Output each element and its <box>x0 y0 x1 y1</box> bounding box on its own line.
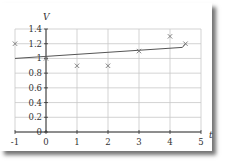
x-axis-label: t <box>209 130 213 140</box>
y-tick-label: 1.4 <box>28 24 42 34</box>
x-tick-label: 3 <box>136 137 141 147</box>
y-axis-label: V <box>43 12 51 22</box>
x-tick-labels: -1012345 <box>11 137 204 147</box>
y-tick-label: 1 <box>37 53 42 63</box>
x-tick-label: 4 <box>167 137 172 147</box>
y-tick-label: 0.8 <box>28 68 42 78</box>
y-tick-label: 0.6 <box>28 83 42 93</box>
y-tick-label: 1.2 <box>28 39 42 49</box>
y-tick-label: 0.4 <box>28 98 42 108</box>
x-tick-label: 2 <box>105 137 110 147</box>
gridlines <box>15 29 201 132</box>
x-tick-label: 0 <box>43 137 48 147</box>
x-tick-label: 1 <box>74 137 79 147</box>
x-tick-label: 5 <box>198 137 203 147</box>
y-tick-label: 0 <box>37 127 42 137</box>
y-tick-labels: 00.20.40.60.811.21.4 <box>28 24 42 137</box>
x-tick-label: -1 <box>11 137 19 147</box>
scatter-chart: 00.20.40.60.811.21.4 -1012345 V t <box>0 0 232 162</box>
y-tick-label: 0.2 <box>28 112 42 122</box>
